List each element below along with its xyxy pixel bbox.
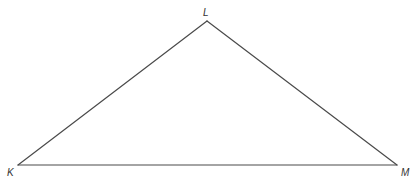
side-kl bbox=[18, 21, 207, 165]
side-lm bbox=[207, 21, 397, 165]
triangle-diagram bbox=[0, 0, 415, 185]
vertex-label-l: L bbox=[203, 8, 209, 18]
vertex-label-m: M bbox=[401, 168, 409, 178]
vertex-label-k: K bbox=[7, 168, 14, 178]
